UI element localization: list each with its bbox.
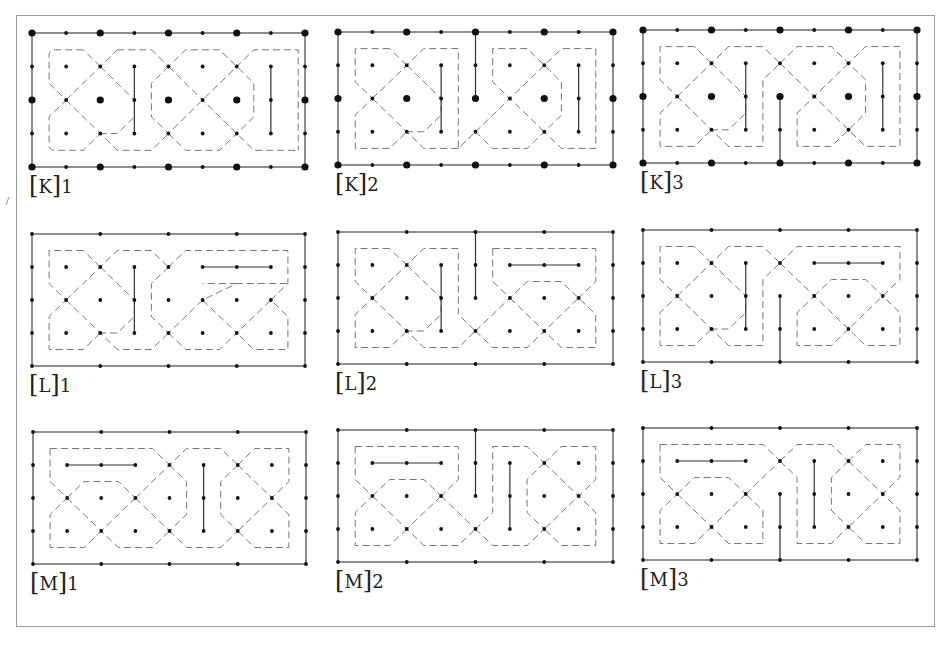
dot xyxy=(439,163,443,167)
dashed-kolam-curve xyxy=(712,63,746,130)
dot xyxy=(915,327,919,331)
dashed-kolam-curve xyxy=(780,47,866,147)
dot xyxy=(304,463,308,467)
dashed-kolam-curve xyxy=(67,498,169,548)
dot xyxy=(30,132,34,136)
dot xyxy=(744,28,748,32)
dot xyxy=(64,132,68,136)
large-dot xyxy=(541,161,548,168)
dot xyxy=(405,362,409,366)
dot xyxy=(881,261,885,265)
dot xyxy=(235,65,239,69)
dot xyxy=(812,28,816,32)
dot xyxy=(99,562,103,566)
dot xyxy=(577,296,581,300)
dashed-kolam-curve xyxy=(677,263,780,346)
dot xyxy=(65,496,69,500)
dashed-kolam-curve xyxy=(49,251,100,350)
dashed-kolam-curve xyxy=(66,50,117,100)
dot xyxy=(405,560,409,564)
dashed-kolam-curve xyxy=(203,300,237,333)
dot xyxy=(881,525,885,529)
large-dot xyxy=(708,159,715,166)
dot xyxy=(167,265,171,269)
dashed-kolam-curve xyxy=(355,447,407,546)
dot xyxy=(201,265,205,269)
dot xyxy=(812,161,816,165)
dot xyxy=(201,298,205,302)
dot xyxy=(778,327,782,331)
dashed-kolam-curve xyxy=(169,67,299,151)
dot xyxy=(710,426,714,430)
dot xyxy=(710,61,714,65)
dashed-kolam-curve xyxy=(83,50,100,67)
dashed-kolam-curve xyxy=(372,249,475,332)
dot xyxy=(542,230,546,234)
dot xyxy=(304,496,308,500)
dashed-kolam-curve xyxy=(66,300,168,350)
dot xyxy=(812,294,816,298)
dot xyxy=(30,331,34,335)
dot xyxy=(611,230,615,234)
dot xyxy=(303,331,307,335)
dot xyxy=(675,61,679,65)
dot xyxy=(577,527,581,531)
dot xyxy=(167,331,171,335)
panel-L2 xyxy=(338,232,613,364)
dashed-kolam-curve xyxy=(493,249,596,299)
dot xyxy=(710,558,714,562)
dot xyxy=(812,95,816,99)
dot xyxy=(132,298,136,302)
dashed-kolam-curve xyxy=(372,49,475,149)
dot xyxy=(31,496,35,500)
dot xyxy=(269,65,273,69)
dot xyxy=(915,459,919,463)
dot xyxy=(474,527,478,531)
dot xyxy=(542,130,546,134)
dot xyxy=(812,525,816,529)
large-dot xyxy=(165,96,172,103)
kolam-drawing xyxy=(33,432,306,564)
dot xyxy=(201,98,205,102)
dot xyxy=(847,459,851,463)
dot xyxy=(336,527,340,531)
panel-K1 xyxy=(32,33,305,167)
dot xyxy=(439,63,443,67)
dot xyxy=(64,65,68,69)
dot xyxy=(542,263,546,267)
dashed-kolam-curve xyxy=(660,445,711,544)
dot xyxy=(577,163,581,167)
dot xyxy=(64,265,68,269)
dashed-kolam-curve xyxy=(660,47,711,147)
label-M3: [M]3 xyxy=(640,564,689,592)
dot xyxy=(915,492,919,496)
dot xyxy=(167,298,171,302)
dot xyxy=(778,228,782,232)
dot xyxy=(439,461,443,465)
dashed-kolam-curve xyxy=(135,449,237,499)
dot xyxy=(201,165,205,169)
large-dot xyxy=(334,95,341,102)
large-dot xyxy=(708,26,715,33)
dot xyxy=(508,263,512,267)
dot xyxy=(269,265,273,269)
dashed-kolam-curve xyxy=(831,461,848,527)
dot xyxy=(474,494,478,498)
dot xyxy=(30,65,34,69)
large-dot xyxy=(639,159,646,166)
dot xyxy=(778,61,782,65)
dot xyxy=(30,232,34,236)
dot xyxy=(235,132,239,136)
dashed-kolam-curve xyxy=(527,463,544,529)
dashed-kolam-curve xyxy=(476,282,596,348)
kolam-drawing xyxy=(643,428,917,560)
dot xyxy=(235,232,239,236)
dot xyxy=(370,263,374,267)
dot xyxy=(439,130,443,134)
dashed-kolam-curve xyxy=(476,298,579,348)
dot xyxy=(201,31,205,35)
dot xyxy=(577,30,581,34)
dot xyxy=(270,529,274,533)
large-dot xyxy=(233,163,240,170)
large-dot xyxy=(97,163,104,170)
